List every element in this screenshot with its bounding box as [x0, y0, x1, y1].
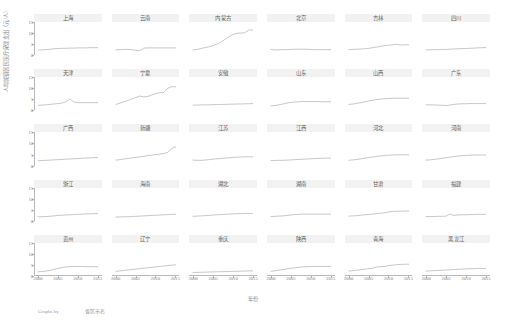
series-line [189, 132, 257, 165]
plot-area [422, 132, 490, 165]
series-line [34, 77, 102, 110]
panel-title: 江西 [267, 124, 335, 132]
panel-江西: 江西 [267, 124, 335, 165]
series-path [193, 213, 253, 216]
plot-area [345, 132, 413, 165]
series-line [112, 77, 180, 110]
panel-安徽: 安徽 [189, 69, 257, 110]
panel-title: 黑龙江 [422, 235, 490, 243]
series-path [271, 158, 331, 160]
panel-江苏: 江苏 [189, 124, 257, 165]
panel-title: 甘肃 [345, 180, 413, 188]
series-line [267, 77, 335, 110]
series-line [112, 22, 180, 55]
plot-area [189, 22, 257, 55]
plot-area [189, 132, 257, 165]
panel-陕西: 陕西2000200520102015 [267, 235, 335, 276]
series-line [112, 243, 180, 276]
x-tick-label: 2015 [248, 276, 257, 281]
series-path [271, 102, 331, 106]
panel-湖北: 湖北 [189, 180, 257, 221]
panel-title: 河北 [345, 124, 413, 132]
y-tick-label: 5 [31, 207, 33, 212]
x-tick-label: 2005 [442, 276, 451, 281]
x-tick-label: 2015 [171, 276, 180, 281]
panel-四川: 四川 [422, 14, 490, 55]
plot-area: 151050 [34, 132, 102, 165]
plot-area: 2000200520102015 [189, 243, 257, 276]
x-tick-label: 2005 [286, 276, 295, 281]
series-line [345, 22, 413, 55]
series-path [271, 214, 331, 216]
panel-title: 陕西 [267, 235, 335, 243]
series-line [345, 188, 413, 221]
plot-area [189, 77, 257, 110]
credit-source: 省区市名 [85, 307, 105, 314]
y-tick-label: 15 [28, 185, 33, 190]
series-path [193, 30, 253, 50]
plot-area [345, 77, 413, 110]
series-line [267, 243, 335, 276]
series-path [38, 266, 98, 271]
panel-title: 重庆 [189, 235, 257, 243]
series-line [34, 188, 102, 221]
series-line [422, 243, 490, 276]
y-tick-label: 10 [28, 196, 33, 201]
panel-内蒙古: 内蒙古 [189, 14, 257, 55]
panel-广西: 广西151050 [34, 124, 102, 165]
panel-宁夏: 宁夏 [112, 69, 180, 110]
series-path [426, 155, 486, 160]
panel-title: 云南 [112, 14, 180, 22]
series-path [193, 157, 253, 161]
panel-浙江: 浙江151050 [34, 180, 102, 221]
x-tick-label: 2005 [209, 276, 218, 281]
panel-title: 福建 [422, 180, 490, 188]
series-path [193, 104, 253, 106]
y-tick-label: 15 [28, 240, 33, 245]
plot-area: 2000200520102015 [267, 243, 335, 276]
panel-青海: 青海2000200520102015 [345, 235, 413, 276]
series-path [38, 99, 98, 105]
y-tick-label: 15 [28, 75, 33, 80]
series-path [38, 158, 98, 161]
credit-graphs-by: Graphs by [38, 309, 59, 314]
series-path [38, 48, 98, 50]
plot-area: 2000200520102015 [345, 243, 413, 276]
panel-北京: 北京 [267, 14, 335, 55]
panel-title: 广东 [422, 69, 490, 77]
plot-area [112, 132, 180, 165]
plot-area: 1510502000200520102015 [34, 243, 102, 276]
panel-重庆: 重庆2000200520102015 [189, 235, 257, 276]
series-line [189, 22, 257, 55]
series-line [189, 243, 257, 276]
series-line [34, 22, 102, 55]
x-tick-label: 2005 [364, 276, 373, 281]
panel-title: 天津 [34, 69, 102, 77]
series-path [349, 211, 409, 216]
panel-福建: 福建 [422, 180, 490, 221]
y-tick-label: 0 [31, 218, 33, 223]
plot-area: 151050 [34, 188, 102, 221]
panel-title: 江苏 [189, 124, 257, 132]
y-tick-label: 5 [31, 152, 33, 157]
series-line [345, 243, 413, 276]
plot-area [112, 22, 180, 55]
y-tick-label: 0 [31, 53, 33, 58]
plot-area: 2000200520102015 [112, 243, 180, 276]
panel-上海: 上海151050 [34, 14, 102, 55]
series-line [422, 188, 490, 221]
x-axis-title: 年份 [0, 295, 506, 302]
plot-area [112, 77, 180, 110]
y-tick-label: 5 [31, 42, 33, 47]
series-path [426, 214, 486, 216]
series-line [422, 22, 490, 55]
plot-area [267, 132, 335, 165]
panel-海南: 海南 [112, 180, 180, 221]
series-path [349, 264, 409, 271]
credit-line: Graphs by 省区市名 [38, 307, 105, 314]
plot-area [267, 22, 335, 55]
panel-辽宁: 辽宁2000200520102015 [112, 235, 180, 276]
series-path [116, 87, 176, 105]
series-line [267, 132, 335, 165]
series-path [349, 98, 409, 104]
